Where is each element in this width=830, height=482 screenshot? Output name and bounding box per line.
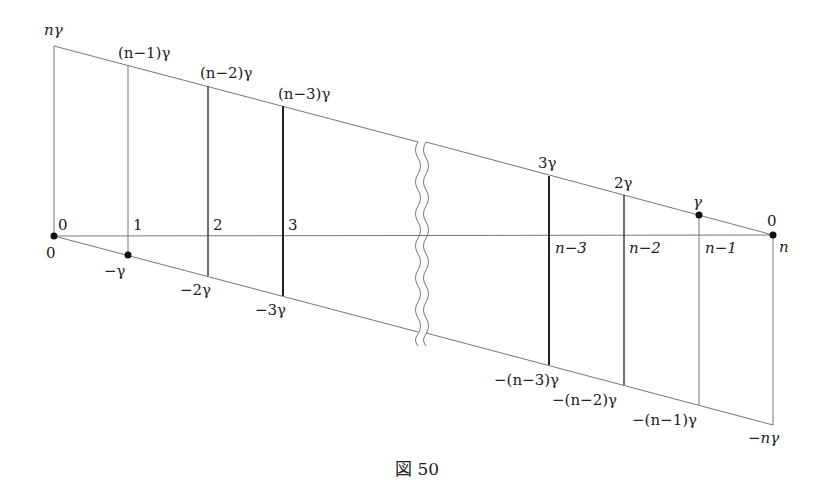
label-n-2-gamma: (n−2)γ xyxy=(200,64,252,82)
lattice-diagram: nγ (n−1)γ (n−2)γ (n−3)γ 3γ 2γ γ 0 0 0 1 … xyxy=(0,0,830,482)
label-2-gamma: 2γ xyxy=(614,174,633,192)
horizontal-axis xyxy=(54,235,773,236)
axis-label-2: 2 xyxy=(213,216,223,234)
axis-label-n-2: n−2 xyxy=(629,239,661,257)
point-origin xyxy=(51,233,58,240)
axis-label-0-bottom: 0 xyxy=(46,244,56,262)
label-minus-n-1-gamma: −(n−1)γ xyxy=(632,411,697,429)
break-mark-left xyxy=(416,142,421,346)
label-gamma: γ xyxy=(693,193,702,211)
axis-label-n-1: n−1 xyxy=(705,239,737,257)
label-minus-n-2-gamma: −(n−2)γ xyxy=(552,391,617,409)
label-n-1-gamma: (n−1)γ xyxy=(118,44,170,62)
top-line-left xyxy=(54,46,418,142)
label-3-gamma: 3γ xyxy=(538,154,557,172)
top-line-right xyxy=(426,142,773,235)
figure-caption: 図 50 xyxy=(395,459,439,479)
label-n-3-gamma: (n−3)γ xyxy=(278,85,330,103)
axis-label-0-top: 0 xyxy=(58,216,68,234)
bottom-line-right xyxy=(426,333,773,425)
label-n-gamma: nγ xyxy=(44,21,63,39)
point-minus-gamma xyxy=(125,252,132,259)
label-minus-n-3-gamma: −(n−3)γ xyxy=(494,371,559,389)
axis-label-1: 1 xyxy=(133,216,143,234)
axis-label-n-3: n−3 xyxy=(555,239,587,257)
point-n xyxy=(770,232,777,239)
label-top-right-zero: 0 xyxy=(767,212,777,230)
bottom-line-left xyxy=(54,236,418,332)
label-minus-n-gamma: −nγ xyxy=(748,429,779,447)
axis-label-3: 3 xyxy=(288,216,298,234)
break-mark-right xyxy=(424,142,429,346)
label-minus-3-gamma: −3γ xyxy=(255,301,286,319)
point-gamma xyxy=(696,212,703,219)
axis-label-n: n xyxy=(779,238,789,256)
label-minus-2-gamma: −2γ xyxy=(180,281,211,299)
label-minus-gamma: −γ xyxy=(104,262,126,280)
